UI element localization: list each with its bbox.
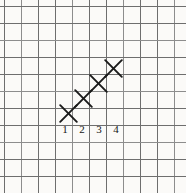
- x-axis-tick-label-1: 1: [59, 124, 71, 135]
- x-axis-labels: 1234: [0, 0, 186, 193]
- x-axis-tick-label-3: 3: [93, 124, 105, 135]
- x-axis-tick-label-2: 2: [76, 124, 88, 135]
- grid-figure: 1234: [0, 0, 186, 193]
- x-axis-tick-label-4: 4: [110, 124, 122, 135]
